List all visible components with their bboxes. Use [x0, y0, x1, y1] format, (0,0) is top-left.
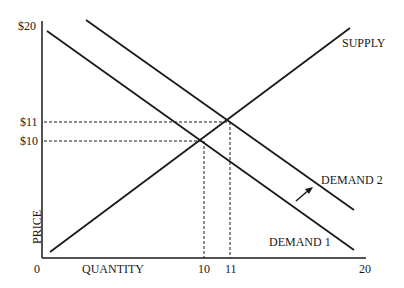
- demand2-label: DEMAND 2: [321, 174, 383, 186]
- demand1-label: DEMAND 1: [269, 236, 331, 248]
- x-tick-20: 20: [359, 263, 371, 275]
- y-axis-label: PRICE: [30, 210, 45, 244]
- demand1-line: [47, 31, 354, 250]
- origin-label: 0: [34, 263, 40, 275]
- shift-arrow-icon: [296, 187, 313, 201]
- y-tick-10: $10: [20, 135, 38, 147]
- y-tick-20: $20: [18, 20, 36, 32]
- x-tick-10: 10: [198, 263, 210, 275]
- x-axis-label: QUANTITY: [82, 263, 144, 275]
- x-tick-11: 11: [225, 263, 237, 275]
- y-tick-11: $11: [20, 116, 38, 128]
- supply-label: SUPPLY: [342, 37, 385, 49]
- demand2-line: [86, 20, 354, 210]
